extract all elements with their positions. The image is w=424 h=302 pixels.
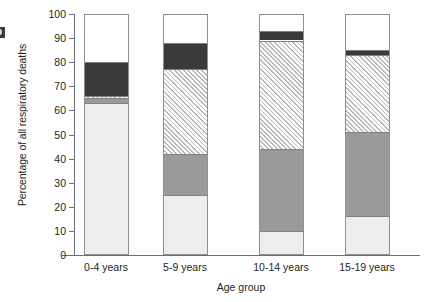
stacked-bar — [84, 14, 129, 255]
y-axis-tick-label-text: 70 — [36, 81, 66, 91]
y-axis-tick-label: 0 — [36, 250, 66, 260]
y-axis-tick-mark — [69, 159, 74, 160]
y-axis-tick-mark — [69, 183, 74, 184]
y-axis-tick-label-text: 60 — [36, 105, 66, 115]
y-axis-tick-label: 80 — [36, 57, 66, 67]
bar-segment-dark-segment — [260, 31, 303, 41]
bar-segment-divider — [260, 31, 303, 32]
bar-segment-divider — [85, 103, 128, 104]
stacked-bar — [259, 14, 304, 255]
stacked-bar — [345, 14, 390, 255]
y-axis-tick-mark — [69, 110, 74, 111]
bar-segment-white-segment — [85, 14, 128, 62]
bar-segment-grey-segment — [260, 149, 303, 231]
bar-segment-dark-segment — [85, 62, 128, 96]
bar-segment-divider — [164, 154, 207, 155]
x-axis-tick-label: 10-14 years — [231, 261, 331, 273]
y-axis-tick-mark — [69, 38, 74, 39]
bar-segment-white-segment — [346, 14, 389, 50]
y-axis-tick-label-text: 80 — [36, 57, 66, 67]
y-axis-tick-label-text: 10 — [36, 226, 66, 236]
bar-segment-grey-segment — [346, 132, 389, 216]
y-axis-tick-label-text: 0 — [36, 250, 66, 260]
bar-segment-divider — [164, 43, 207, 44]
y-axis-tick-label: 20 — [36, 202, 66, 212]
y-axis-tick-label: 40 — [36, 154, 66, 164]
x-axis-tick-label: 5-9 years — [135, 261, 235, 273]
y-axis-tick-label-text: 20 — [36, 202, 66, 212]
y-axis-tick-label: 90 — [36, 33, 66, 43]
bar-segment-hatched-segment — [346, 55, 389, 132]
y-axis-tick-label: 10 — [36, 226, 66, 236]
y-axis-line — [74, 14, 75, 256]
bar-segment-light-grey-segment — [85, 103, 128, 255]
y-axis-tick-mark — [69, 135, 74, 136]
bar-segment-divider — [346, 55, 389, 56]
y-axis-tick-label-text: 30 — [36, 178, 66, 188]
y-axis-tick-mark — [69, 62, 74, 63]
bar-segment-divider — [346, 216, 389, 217]
y-axis-tick-label: 50 — [36, 130, 66, 140]
bar-segment-divider — [164, 69, 207, 70]
y-axis-tick-label: 30 — [36, 178, 66, 188]
bar-segment-light-grey-segment — [346, 216, 389, 255]
stacked-bar-chart-figure: 9 Percentage of all respiratory deaths 0… — [0, 0, 424, 302]
bar-segment-divider — [260, 149, 303, 150]
bar-segment-divider — [164, 195, 207, 196]
y-axis-tick-label-text: 50 — [36, 130, 66, 140]
bar-segment-white-segment — [164, 14, 207, 43]
y-axis-tick-label: 100 — [36, 9, 66, 19]
y-axis-tick-label-text: 100 — [36, 9, 66, 19]
y-axis-tick-label-text: 90 — [36, 33, 66, 43]
y-axis-tick-label: 70 — [36, 81, 66, 91]
bar-segment-light-grey-segment — [164, 195, 207, 255]
y-axis-tick-mark — [69, 231, 74, 232]
bar-segment-hatched-segment — [260, 41, 303, 149]
stacked-bar — [163, 14, 208, 255]
bar-segment-divider — [346, 132, 389, 133]
y-axis-tick-mark — [69, 86, 74, 87]
y-axis-tick-label: 60 — [36, 105, 66, 115]
bar-segment-divider — [85, 96, 128, 97]
bar-segment-divider — [85, 98, 128, 99]
x-axis-tick-label: 15-19 years — [317, 261, 417, 273]
plot-area: 0102030405060708090100 0-4 years5-9 year… — [0, 0, 424, 302]
x-axis-line — [62, 255, 420, 256]
y-axis-tick-mark — [69, 207, 74, 208]
y-axis-tick-label-text: 40 — [36, 154, 66, 164]
bar-segment-divider — [260, 41, 303, 42]
bar-segment-dark-segment — [164, 43, 207, 70]
y-axis-tick-mark — [69, 255, 74, 256]
x-axis-title: Age group — [62, 281, 420, 293]
bar-segment-divider — [260, 231, 303, 232]
bar-segment-white-segment — [260, 14, 303, 31]
bar-segment-divider — [85, 62, 128, 63]
y-axis-tick-mark — [69, 14, 74, 15]
bar-segment-grey-segment — [164, 154, 207, 195]
bar-segment-light-grey-segment — [260, 231, 303, 255]
bar-segment-hatched-segment — [164, 69, 207, 153]
bar-segment-divider — [346, 50, 389, 51]
